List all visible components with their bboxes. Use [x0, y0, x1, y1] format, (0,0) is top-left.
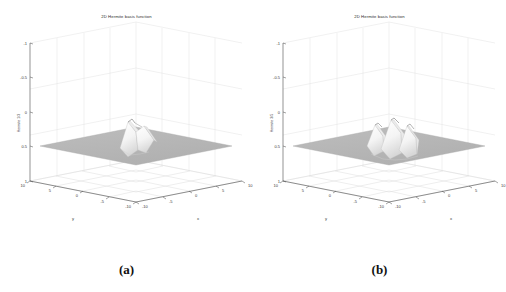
figure-two-panel: 2D Hermite basis function	[0, 0, 506, 292]
z-ticks-a: -1 -0.5 0 0.5 1	[20, 41, 33, 184]
z-axis-label-a: Hermite 1/3	[17, 114, 21, 133]
x-tick-label: -5	[169, 199, 173, 204]
y-tick-label: -10	[378, 204, 385, 209]
y-tick-label: -10	[125, 204, 132, 209]
z-tick-label: 0	[278, 110, 281, 115]
y-tick-label: 0	[329, 193, 332, 198]
z-tick-label: -0.5	[20, 75, 28, 80]
z-tick-label: -0.5	[273, 75, 281, 80]
x-tick-label: 5	[222, 188, 225, 193]
x-axis-label-a: x	[197, 216, 200, 221]
y-tick-label: 10	[21, 183, 26, 188]
z-ticks-b: -1 -0.5 0 0.5 1	[273, 41, 286, 184]
y-tick-label: 0	[76, 193, 79, 198]
x-tick-label: 10	[501, 183, 506, 188]
y-axis-b	[283, 181, 389, 202]
grid-floor-a	[30, 160, 242, 202]
z-tick-label: -1	[276, 41, 280, 46]
y-axis-label-b: y	[325, 216, 328, 221]
x-tick-label: 0	[448, 193, 451, 198]
z-tick-label: 0	[25, 110, 28, 115]
panel-b: 2D Hermite basis function	[253, 0, 506, 292]
x-tick-label: 0	[195, 193, 198, 198]
y-tick-label: 5	[302, 188, 305, 193]
x-tick-label: -10	[395, 204, 402, 209]
x-axis-b	[389, 181, 495, 202]
y-axis-label-a: y	[72, 216, 75, 221]
x-tick-label: 5	[475, 188, 478, 193]
axes-3d-b: -1 -0.5 0 0.5 1 Hermite 3/5 10 5 0 -5	[271, 26, 499, 231]
z-tick-label: -1	[23, 41, 27, 46]
grid-floor-b	[283, 160, 495, 202]
x-axis-a	[136, 181, 242, 202]
z-tick-label: 0.5	[21, 144, 27, 149]
plot-title-a: 2D Hermite basis function	[0, 14, 253, 19]
panel-a: 2D Hermite basis function	[0, 0, 253, 292]
x-tick-label: -10	[142, 204, 149, 209]
z-axis-label-b: Hermite 3/5	[270, 114, 274, 133]
y-tick-label: -5	[100, 199, 104, 204]
subfigure-caption-b: (b)	[253, 262, 506, 278]
plot-title-b: 2D Hermite basis function	[253, 14, 506, 19]
y-tick-label: -5	[353, 199, 357, 204]
y-axis-a	[30, 181, 136, 202]
x-axis-label-b: x	[450, 216, 453, 221]
x-tick-label: -5	[422, 199, 426, 204]
y-tick-label: 5	[49, 188, 52, 193]
y-tick-label: 10	[274, 183, 279, 188]
z-tick-label: 0.5	[274, 144, 280, 149]
subfigure-caption-a: (a)	[0, 262, 253, 278]
hermite-surface-b	[367, 118, 419, 160]
axes-3d-a: -1 -0.5 0 0.5 1 Hermite 1/3 10 5	[18, 26, 246, 231]
